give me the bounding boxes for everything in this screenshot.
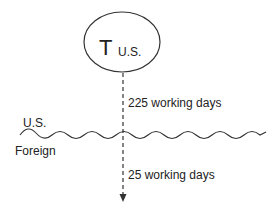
- node-label-subscript: U.S.: [118, 46, 141, 58]
- node-label-main: T: [99, 37, 112, 59]
- region-label-us: U.S.: [23, 117, 46, 129]
- node-ellipse: [84, 12, 160, 72]
- flow-lower-label: 25 working days: [128, 169, 215, 181]
- flow-upper-label: 225 working days: [128, 97, 221, 109]
- border-wave-line: [20, 129, 266, 139]
- arrowhead-down-icon: [120, 194, 127, 202]
- region-label-foreign: Foreign: [15, 145, 56, 157]
